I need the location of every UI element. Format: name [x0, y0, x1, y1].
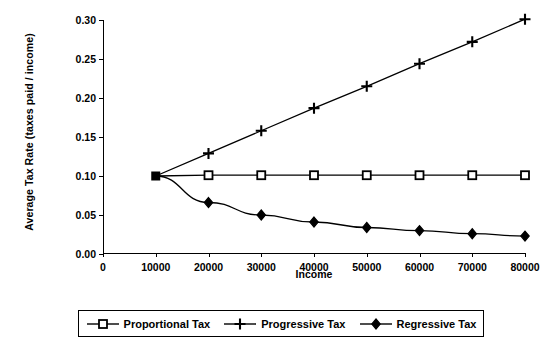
data-point-plus: [414, 58, 425, 69]
data-point-open-square: [363, 171, 371, 179]
y-tick-label: 0.05: [76, 209, 96, 221]
legend-marker-open-square-icon: [86, 318, 120, 330]
markers-progressive-tax: [203, 14, 531, 159]
data-point-open-square: [99, 320, 107, 328]
data-point-filled-diamond: [521, 231, 529, 241]
data-point-plus: [467, 36, 478, 47]
data-point-open-square: [257, 171, 265, 179]
data-point-plus: [256, 125, 267, 136]
legend-item: Regressive Tax: [359, 318, 477, 330]
data-point-open-square: [468, 171, 476, 179]
series-regressive-tax: [156, 176, 525, 236]
data-point-filled-diamond: [257, 210, 265, 220]
data-point-plus: [235, 318, 246, 329]
series-plot: [103, 20, 525, 254]
data-point-plus: [520, 14, 531, 25]
data-point-filled-square: [151, 172, 160, 181]
plot-area: 0.000.050.100.150.200.250.30 01000020000…: [103, 20, 525, 254]
chart-root: Average Tax Rate (taxes paid / income) 0…: [0, 0, 560, 353]
y-tick-label: 0.15: [76, 131, 96, 143]
data-point-filled-diamond: [415, 226, 423, 236]
data-point-filled-diamond: [468, 229, 476, 239]
x-tick: [525, 253, 526, 257]
y-tick-label: 0.10: [76, 170, 96, 182]
y-tick-label: 0.30: [76, 14, 96, 26]
data-point-filled-diamond: [204, 198, 212, 208]
legend-label: Progressive Tax: [261, 318, 345, 330]
data-point-filled-diamond: [371, 319, 379, 329]
y-axis-title: Average Tax Rate (taxes paid / income): [23, 7, 35, 257]
legend-item: Progressive Tax: [223, 318, 345, 330]
data-point-open-square: [205, 171, 213, 179]
chart-legend: Proportional TaxProgressive TaxRegressiv…: [78, 310, 484, 337]
data-point-open-square: [521, 171, 529, 179]
y-tick-label: 0.00: [76, 248, 96, 260]
legend-marker-filled-diamond-icon: [359, 318, 393, 330]
data-point-open-square: [416, 171, 424, 179]
data-point-plus: [309, 103, 320, 114]
legend-label: Proportional Tax: [124, 318, 211, 330]
y-tick-label: 0.25: [76, 53, 96, 65]
data-point-filled-diamond: [363, 222, 371, 232]
y-tick-label: 0.20: [76, 92, 96, 104]
markers-regressive-tax: [204, 198, 529, 242]
x-axis-title: Income: [103, 268, 525, 280]
data-point-open-square: [310, 171, 318, 179]
data-point-plus: [203, 148, 214, 159]
data-point-filled-diamond: [310, 217, 318, 227]
legend-marker-plus-icon: [223, 318, 257, 330]
legend-item: Proportional Tax: [86, 318, 211, 330]
data-point-plus: [361, 81, 372, 92]
legend-label: Regressive Tax: [397, 318, 477, 330]
